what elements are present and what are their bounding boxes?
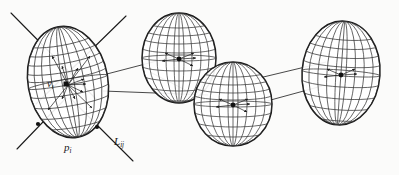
blob-1-surface-dot-left [36, 122, 40, 126]
label-pi-subscript: i [70, 147, 72, 155]
label-pi: pi [64, 142, 71, 155]
blob-1-surface-dot-right [95, 125, 99, 129]
blob-1-center-marker [64, 82, 69, 87]
figure-canvas: vi pi Lij [0, 0, 399, 175]
blob-3 [194, 62, 272, 147]
blob-3-center-marker [231, 103, 236, 108]
diagram-svg [0, 0, 399, 175]
label-vi: vi [47, 79, 53, 90]
label-lij-subscript: ij [120, 141, 124, 149]
blob-4-center-marker [339, 73, 344, 78]
label-lij: Lij [114, 136, 124, 149]
blob-4 [298, 18, 383, 127]
blob-2-center-marker [177, 57, 182, 62]
label-vi-subscript: i [52, 83, 54, 90]
